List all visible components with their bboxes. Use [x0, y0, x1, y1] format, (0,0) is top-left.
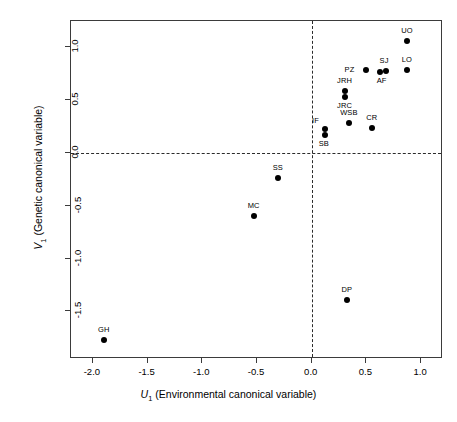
reference-line-vertical [312, 21, 313, 357]
y-axis-tick-label: -0.5 [72, 205, 83, 221]
y-axis-tick-label-text: -1.0 [72, 249, 83, 265]
x-axis-tick-label: -2.0 [84, 366, 100, 377]
data-point [342, 94, 348, 100]
data-point-label: SS [273, 164, 283, 172]
x-axis-tick-label: -0.5 [248, 366, 264, 377]
data-point [251, 213, 257, 219]
x-axis-tick [311, 358, 312, 363]
x-axis-tick [256, 358, 257, 363]
y-axis-tick-label: 0.5 [69, 99, 80, 112]
y-axis-tick-label-text: 1.0 [69, 40, 80, 53]
data-point [377, 69, 383, 75]
x-axis-tick [147, 358, 148, 363]
canonical-correlation-scatter-figure: UOLOSJAFPZJRHJRCWSBCRIFSBSSMCDPGH -2.0-1… [0, 0, 457, 422]
data-point-label: WSB [340, 109, 357, 117]
x-axis-tick [92, 358, 93, 363]
data-point-label: IF [312, 117, 319, 125]
y-axis-variable-symbol: V [32, 243, 44, 250]
y-axis-tick-label-text: 0.5 [69, 93, 80, 106]
y-axis-tick-label: 1.0 [69, 46, 80, 59]
data-point-label: PZ [345, 66, 355, 74]
y-axis-tick-label-text: -0.5 [72, 197, 83, 213]
x-axis-tick [365, 358, 366, 363]
data-point-label: SB [319, 140, 329, 148]
data-point [322, 132, 328, 138]
y-axis-tick [65, 310, 70, 311]
data-point-label: AF [377, 77, 387, 85]
data-point-label: DP [341, 286, 352, 294]
data-point [346, 120, 352, 126]
x-axis-tick-label: -1.5 [138, 366, 154, 377]
y-axis-tick-label-text: -1.5 [72, 302, 83, 318]
reference-line-horizontal [71, 153, 441, 154]
y-axis-tick-label-text: 0.0 [69, 145, 80, 158]
data-point-label: MC [248, 202, 260, 210]
data-point-label: UO [401, 27, 412, 35]
x-axis-tick [201, 358, 202, 363]
data-point [369, 125, 375, 131]
y-axis-variable-subscript: 1 [39, 239, 48, 243]
x-axis-tick-label: -1.0 [193, 366, 209, 377]
x-axis-tick-label: 1.0 [414, 366, 427, 377]
data-point [342, 88, 348, 94]
y-axis-tick [65, 205, 70, 206]
data-point-label: SJ [380, 57, 389, 65]
data-point [404, 38, 410, 44]
y-axis-title-text: (Genetic canonical variable) [32, 105, 44, 238]
data-point-label: GH [98, 326, 109, 334]
data-point [404, 67, 410, 73]
x-axis-title: U1 (Environmental canonical variable) [0, 388, 457, 403]
y-axis-tick-label: 0.0 [69, 152, 80, 165]
data-point-label: JRH [337, 77, 352, 85]
data-point [275, 175, 281, 181]
x-axis-tick-label: 0.5 [359, 366, 372, 377]
data-point [101, 337, 107, 343]
x-axis-tick [420, 358, 421, 363]
y-axis-tick-label: -1.0 [72, 258, 83, 274]
x-axis-tick-label: 0.0 [304, 366, 317, 377]
x-axis-title-text: (Environmental canonical variable) [152, 388, 316, 400]
y-axis-title: V1 (Genetic canonical variable) [32, 48, 47, 308]
data-point-label: LO [402, 56, 412, 64]
plot-area: UOLOSJAFPZJRHJRCWSBCRIFSBSSMCDPGH [71, 21, 441, 357]
data-point [322, 126, 328, 132]
data-point [383, 68, 389, 74]
data-point [363, 67, 369, 73]
data-point-label: CR [366, 114, 377, 122]
data-point [344, 297, 350, 303]
y-axis-tick-label: -1.5 [72, 310, 83, 326]
plot-frame: UOLOSJAFPZJRHJRCWSBCRIFSBSSMCDPGH [70, 20, 442, 358]
y-axis-tick [65, 258, 70, 259]
